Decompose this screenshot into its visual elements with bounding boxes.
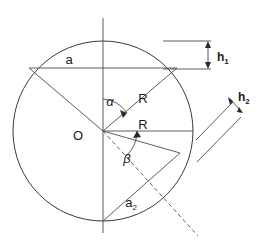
- height-h1-label-sub: 1: [224, 57, 229, 66]
- radius-to-chord-a2-line: [103, 131, 180, 153]
- h2-upper-reference-line: [196, 102, 233, 140]
- center-label: O: [73, 128, 83, 143]
- height-h2-label: h2: [238, 90, 250, 106]
- radius-upper-label: R: [138, 91, 147, 106]
- chord-a-label: a: [65, 52, 73, 67]
- angle-beta-label: β: [122, 151, 131, 166]
- radius-upper-left-line: [29, 68, 103, 131]
- h1-arrowhead-top: [205, 41, 211, 48]
- height-h1-label: h1: [217, 50, 229, 66]
- geometry-diagram: O a a2 R R α β h1 h2: [0, 0, 264, 240]
- geometry-canvas: O a a2 R R α β h1 h2: [0, 0, 264, 240]
- radius-lower-label: R: [138, 117, 147, 132]
- chord-a2-label-sub: 2: [132, 203, 137, 212]
- chord-a2-label: a2: [125, 195, 137, 212]
- height-h2-label-sub: 2: [245, 97, 250, 106]
- h1-arrowhead-bottom: [205, 62, 211, 69]
- angle-beta-arrowhead: [133, 131, 141, 138]
- chord-a2-line: [103, 153, 180, 221]
- height-h1-label-base: h: [217, 50, 224, 64]
- height-h2-label-base: h: [238, 90, 245, 104]
- angle-alpha-label: α: [106, 94, 114, 109]
- h2-arrowhead-start: [228, 97, 233, 105]
- h2-lower-reference-line: [197, 117, 241, 162]
